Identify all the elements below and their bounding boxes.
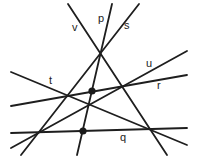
dot-upper — [88, 87, 95, 94]
label-t: t — [49, 74, 52, 86]
label-q: q — [120, 131, 126, 143]
label-p: p — [98, 12, 104, 24]
label-u: u — [146, 57, 152, 69]
line-diagram: vpsurtq — [0, 0, 199, 164]
diagram-canvas: vpsurtq — [0, 0, 199, 164]
label-v: v — [72, 21, 78, 33]
label-s: s — [124, 19, 130, 31]
dot-lower — [79, 127, 86, 134]
line-q — [11, 128, 187, 133]
label-r: r — [157, 79, 161, 91]
